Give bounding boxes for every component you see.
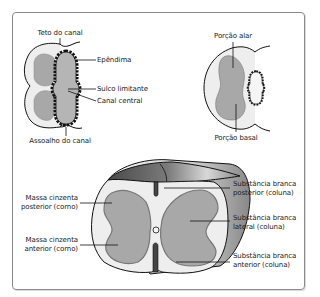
label-line: Substância branca	[233, 214, 296, 223]
label-basal-plate: Porção basal	[214, 134, 257, 143]
label-anterior-gray-horn: Massa cinzenta anterior (corno)	[20, 236, 78, 253]
label-roof-of-canal: Teto do canal	[37, 29, 82, 38]
spinal-cord-3d	[80, 160, 250, 274]
neural-tube-section	[24, 38, 96, 136]
label-posterior-white-column: Substância branca posterior (coluna)	[233, 180, 296, 197]
alar-basal-section	[204, 42, 270, 132]
label-line: posterior (corno)	[20, 203, 78, 212]
label-line: Massa cinzenta	[20, 194, 78, 203]
label-line: anterior (coluna)	[233, 261, 296, 270]
label-line: Substância branca	[233, 252, 296, 261]
label-central-canal: Canal central	[97, 97, 142, 106]
label-anterior-white-column: Substância branca anterior (coluna)	[233, 252, 296, 269]
label-line: anterior (corno)	[20, 245, 78, 254]
label-line: Massa cinzenta	[20, 236, 78, 245]
label-line: posterior (coluna)	[233, 189, 296, 198]
label-line: lateral (coluna)	[233, 223, 296, 232]
label-sulcus-limitans: Sulco limitante	[97, 85, 148, 94]
label-posterior-gray-horn: Massa cinzenta posterior (corno)	[20, 194, 78, 211]
label-ependyma: Epêndima	[97, 56, 131, 65]
label-line: Substância branca	[233, 180, 296, 189]
label-floor-of-canal: Assoalho do canal	[29, 137, 91, 146]
label-lateral-white-column: Substância branca lateral (coluna)	[233, 214, 296, 231]
label-alar-plate: Porção alar	[214, 32, 252, 41]
